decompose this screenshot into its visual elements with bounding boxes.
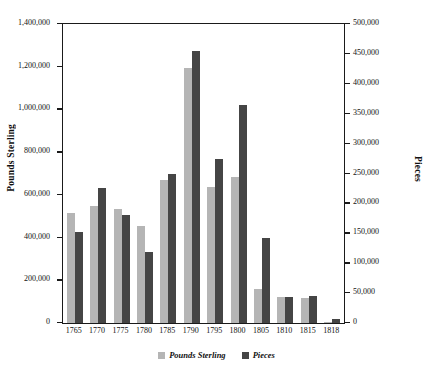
bar-group — [114, 24, 130, 323]
right-tick-label: 150,000 — [353, 228, 379, 236]
bar-group — [277, 24, 293, 323]
bar-group — [324, 24, 340, 323]
chart-legend: Pounds SterlingPieces — [0, 350, 433, 360]
x-tick-label: 1800 — [230, 326, 246, 340]
legend-swatch-icon — [158, 352, 165, 359]
bar-pieces — [239, 105, 247, 323]
bar-pounds-sterling — [324, 322, 332, 323]
plot-area — [62, 23, 345, 324]
x-tick-label: 1805 — [253, 326, 269, 340]
right-tick-label: 200,000 — [353, 198, 379, 206]
bar-group — [67, 24, 83, 323]
left-tick-label: 1,000,000 — [18, 104, 50, 112]
right-tick-mark — [345, 23, 350, 24]
x-tick-label: 1810 — [276, 326, 292, 340]
bar-pounds-sterling — [254, 289, 262, 323]
right-tick-mark — [345, 262, 350, 263]
bar-pounds-sterling — [160, 180, 168, 323]
right-tick-label: 500,000 — [353, 19, 379, 27]
bar-series-container — [63, 24, 344, 323]
bar-pieces — [309, 296, 317, 323]
bar-group — [207, 24, 223, 323]
bar-pounds-sterling — [231, 177, 239, 323]
right-tick-mark — [345, 292, 350, 293]
legend-item: Pounds Sterling — [158, 350, 225, 360]
bar-group — [301, 24, 317, 323]
right-tick-mark — [345, 53, 350, 54]
right-tick-label: 350,000 — [353, 109, 379, 117]
left-tick-label: 800,000 — [24, 147, 50, 155]
x-tick-label: 1790 — [183, 326, 199, 340]
bar-pieces — [168, 174, 176, 324]
left-tick-label: 1,200,000 — [18, 62, 50, 70]
right-tick-label: 300,000 — [353, 139, 379, 147]
bar-pounds-sterling — [184, 68, 192, 323]
legend-label: Pounds Sterling — [169, 350, 225, 360]
bar-pieces — [215, 159, 223, 323]
bar-pounds-sterling — [137, 226, 145, 323]
bar-pounds-sterling — [207, 187, 215, 323]
x-axis-tick-labels: 1765177017751780178517901795180018051810… — [62, 326, 343, 340]
bar-pounds-sterling — [301, 298, 309, 323]
bar-pieces — [192, 51, 200, 323]
right-tick-label: 250,000 — [353, 169, 379, 177]
bar-pieces — [75, 232, 83, 323]
right-axis-ticks: 500,000450,000400,000350,000300,000250,0… — [345, 0, 415, 371]
bar-pounds-sterling — [67, 213, 75, 323]
bar-pounds-sterling — [90, 206, 98, 323]
right-tick-mark — [345, 173, 350, 174]
right-tick-label: 0 — [353, 318, 357, 326]
right-tick-label: 50,000 — [353, 288, 375, 296]
bar-pieces — [262, 238, 270, 324]
x-tick-label: 1775 — [113, 326, 129, 340]
right-tick-label: 450,000 — [353, 49, 379, 57]
bar-pieces — [98, 188, 106, 323]
legend-swatch-icon — [242, 352, 249, 359]
chart-figure: Pounds Sterling Pieces 1,400,0001,200,00… — [0, 0, 433, 371]
bar-pounds-sterling — [114, 209, 122, 323]
right-tick-mark — [345, 143, 350, 144]
left-tick-label: 600,000 — [24, 190, 50, 198]
bar-group — [231, 24, 247, 323]
bar-pieces — [145, 252, 153, 323]
x-tick-label: 1780 — [136, 326, 152, 340]
x-tick-label: 1795 — [206, 326, 222, 340]
legend-item: Pieces — [242, 350, 275, 360]
left-tick-label: 200,000 — [24, 275, 50, 283]
x-tick-label: 1770 — [89, 326, 105, 340]
bar-group — [90, 24, 106, 323]
legend-label: Pieces — [253, 350, 275, 360]
right-tick-mark — [345, 232, 350, 233]
left-tick-label: 1,400,000 — [18, 19, 50, 27]
bar-pieces — [122, 215, 130, 323]
x-tick-label: 1815 — [300, 326, 316, 340]
right-tick-mark — [345, 322, 350, 323]
left-tick-label: 0 — [46, 318, 50, 326]
right-tick-mark — [345, 83, 350, 84]
bar-pieces — [332, 319, 340, 323]
bar-group — [137, 24, 153, 323]
left-axis-ticks: 1,400,0001,200,0001,000,000800,000600,00… — [0, 0, 57, 371]
x-tick-label: 1785 — [159, 326, 175, 340]
right-tick-label: 100,000 — [353, 258, 379, 266]
right-tick-mark — [345, 113, 350, 114]
bar-group — [160, 24, 176, 323]
x-tick-label: 1818 — [323, 326, 339, 340]
x-tick-label: 1765 — [66, 326, 82, 340]
bar-group — [184, 24, 200, 323]
right-tick-mark — [345, 202, 350, 203]
bar-group — [254, 24, 270, 323]
right-tick-label: 400,000 — [353, 79, 379, 87]
bar-pounds-sterling — [277, 297, 285, 323]
bar-pieces — [285, 297, 293, 323]
left-tick-label: 400,000 — [24, 233, 50, 241]
